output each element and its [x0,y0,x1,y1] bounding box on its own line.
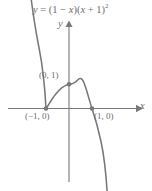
equation-plus-one: + 1) [85,4,105,15]
plot-area [0,0,152,191]
y-axis-arrowhead [66,21,73,28]
point-label-root-positive-one: (1, 0) [94,112,114,121]
point-label-y-intercept: (0, 1) [39,71,59,80]
equation-label: y = (1 − x)(x + 1)2 [33,3,109,15]
x-axis-label: x [140,101,145,112]
point-marker-y-intercept [67,82,72,87]
y-axis-label: y [58,19,63,30]
point-label-root-negative-one: (−1, 0) [25,112,50,121]
equation-exponent: 2 [105,2,109,10]
equation-minus: − [60,4,69,15]
graph-figure: y = (1 − x)(x + 1)2 y x (0, 1) (−1, 0) (… [0,0,152,191]
equation-eq: = (1 [38,4,61,15]
